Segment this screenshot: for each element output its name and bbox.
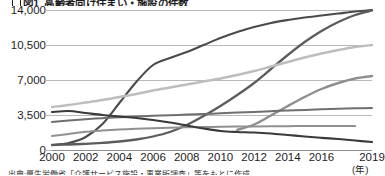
y-tick-3500 — [45, 115, 52, 116]
x-tick-label-2012: 2012 — [241, 151, 267, 163]
y-tick-10500 — [45, 45, 52, 46]
y-axis-labels: 03,5007,00010,50014,000 — [0, 10, 46, 150]
x-tick-label-2002: 2002 — [73, 151, 99, 163]
line-series-2-paid-nursing-home — [52, 11, 372, 146]
y-tick-label-7000: 7,000 — [17, 74, 46, 86]
y-tick-label-14000: 14,000 — [11, 4, 46, 16]
x-tick-label-2004: 2004 — [107, 151, 133, 163]
line-series-group — [52, 10, 372, 150]
y-tick-label-10500: 10,500 — [11, 39, 46, 51]
x-axis-labels: 2000200220042006200820102012201420162019 — [52, 151, 372, 167]
x-tick-label-2010: 2010 — [208, 151, 234, 163]
line-series-4-mid-gray-late — [237, 76, 372, 130]
x-tick-label-2008: 2008 — [174, 151, 200, 163]
line-series-3-light-gray — [52, 45, 372, 107]
x-tick-label-2014: 2014 — [275, 151, 301, 163]
x-tick-label-2006: 2006 — [140, 151, 166, 163]
source-note: 出典:厚生労働省「介護サービス施設・事業所調査」等をもとに作成 — [8, 168, 250, 175]
y-tick-7000 — [45, 80, 52, 81]
x-axis-unit: (年) — [352, 162, 368, 176]
x-tick-label-2000: 2000 — [39, 151, 65, 163]
figure-title-text: 高齢者向け住まい・施設の件数 — [44, 0, 188, 6]
x-tick-label-2016: 2016 — [309, 151, 335, 163]
y-tick-label-3500: 3,500 — [17, 109, 46, 121]
plot-area — [52, 10, 372, 150]
y-tick-14000 — [45, 10, 52, 11]
